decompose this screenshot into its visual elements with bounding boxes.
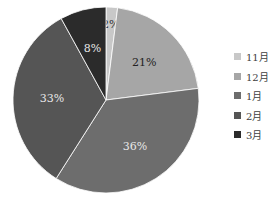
legend-swatch <box>234 131 241 138</box>
legend: 11月 12月 1月 2月 3月 <box>234 47 269 145</box>
legend-label: 12月 <box>246 69 269 84</box>
pie-slice-1 <box>106 8 198 100</box>
slice-label: 8% <box>84 42 101 55</box>
slice-label: 33% <box>40 92 64 105</box>
legend-swatch <box>234 112 241 119</box>
legend-label: 2月 <box>246 108 262 123</box>
legend-label: 3月 <box>246 127 262 142</box>
legend-swatch <box>234 92 241 99</box>
legend-item-nov: 11月 <box>234 47 269 67</box>
pie-chart: 2%21%36%33%8% <box>0 0 269 200</box>
legend-label: 1月 <box>246 88 262 103</box>
legend-swatch <box>234 53 241 60</box>
legend-item-mar: 3月 <box>234 125 269 145</box>
slice-label: 21% <box>132 56 156 69</box>
legend-item-dec: 12月 <box>234 67 269 87</box>
legend-item-feb: 2月 <box>234 106 269 126</box>
legend-item-jan: 1月 <box>234 86 269 106</box>
slice-label: 36% <box>123 140 147 153</box>
legend-swatch <box>234 73 241 80</box>
legend-label: 11月 <box>246 49 269 64</box>
